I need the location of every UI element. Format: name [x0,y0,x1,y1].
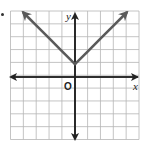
axes [11,14,138,139]
y-axis-label: y [65,10,71,22]
x-axis-label: x [132,80,138,92]
origin-label: O [64,81,72,92]
coordinate-plane: y x O [0,0,145,148]
